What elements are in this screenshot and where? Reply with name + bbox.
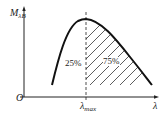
lambda-max-label: λmax [80,101,96,113]
y-axis-label: MλB [10,8,26,20]
x-axis-arrow-icon [154,95,159,98]
hatched-region-75 [30,25,165,95]
right-area-percent: 75% [103,57,120,66]
x-axis-label: λ [153,101,157,111]
origin-label: O [16,93,23,103]
left-area-percent: 25% [65,59,82,68]
planck-curve [52,19,152,85]
